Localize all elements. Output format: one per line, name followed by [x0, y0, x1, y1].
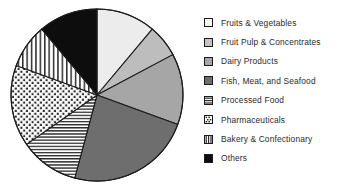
pie-slice-group — [11, 9, 183, 181]
chart-legend: Fruits & Vegetables Fruit Pulp & Concent… — [204, 13, 357, 173]
medium-gray-swatch-icon — [204, 57, 213, 66]
light-gray-swatch-icon — [204, 18, 213, 27]
black-swatch-icon — [204, 154, 213, 163]
legend-item-others[interactable]: Others — [204, 149, 357, 168]
legend-label: Bakery & Confectionary — [221, 134, 312, 144]
legend-item-fruit-pulp-concentrates[interactable]: Fruit Pulp & Concentrates — [204, 32, 357, 51]
legend-item-fish-meat-seafood[interactable]: Fish, Meat, and Seafood — [204, 71, 357, 90]
legend-item-fruits-vegetables[interactable]: Fruits & Vegetables — [204, 13, 357, 32]
legend-label: Others — [221, 153, 247, 163]
legend-item-pharmaceuticals[interactable]: Pharmaceuticals — [204, 110, 357, 129]
legend-label: Processed Food — [221, 95, 284, 105]
legend-label: Dairy Products — [221, 56, 278, 66]
horizontal-lines-swatch-icon — [204, 96, 213, 105]
legend-label: Pharmaceuticals — [221, 115, 285, 125]
legend-label: Fruits & Vegetables — [221, 18, 296, 28]
legend-item-processed-food[interactable]: Processed Food — [204, 91, 357, 110]
legend-label: Fish, Meat, and Seafood — [221, 76, 316, 86]
legend-label: Fruit Pulp & Concentrates — [221, 37, 321, 47]
gray-swatch-icon — [204, 38, 213, 47]
pie-chart-figure: Fruits & Vegetables Fruit Pulp & Concent… — [0, 0, 357, 184]
pie-chart-svg — [0, 0, 196, 184]
dotted-swatch-icon — [204, 115, 213, 124]
legend-item-dairy-products[interactable]: Dairy Products — [204, 52, 357, 71]
pie-chart-plot-area — [0, 0, 196, 184]
vertical-lines-swatch-icon — [204, 135, 213, 144]
legend-item-bakery-confectionary[interactable]: Bakery & Confectionary — [204, 129, 357, 148]
dark-gray-swatch-icon — [204, 76, 213, 85]
